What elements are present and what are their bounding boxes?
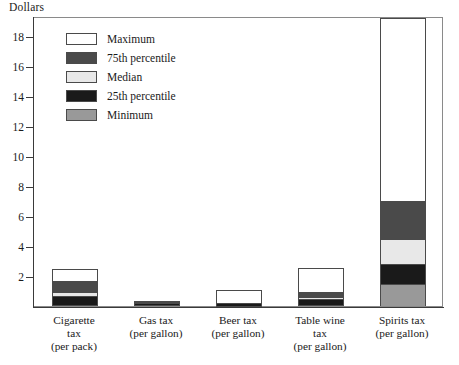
y-axis-tick-mark [26,37,34,38]
bar-segment [380,284,426,307]
x-axis-label: Beer tax (per gallon) [197,314,279,340]
legend-label: 25th percentile [107,90,176,102]
legend-label: Minimum [107,109,153,121]
x-axis-label: Spirits tax (per gallon) [361,314,443,340]
legend-swatch [66,33,97,45]
legend-swatch [66,52,97,64]
y-axis-tick-label: 14 [2,91,24,103]
legend-swatch [66,90,97,102]
legend-item[interactable]: Minimum [66,106,226,125]
y-axis-line [33,17,34,308]
bar-column[interactable] [380,16,426,306]
y-axis-tick-label: 16 [2,61,24,73]
y-axis-tick-label: 8 [2,181,24,193]
y-axis-tick-label: 2 [2,271,24,283]
y-axis-tick-label: 4 [2,241,24,253]
x-axis-label: Cigarette tax (per pack) [33,314,115,354]
y-axis-tick-label: 6 [2,211,24,223]
legend-item[interactable]: Median [66,67,226,86]
y-axis-tick-mark [26,157,34,158]
y-axis-tick-mark [26,127,34,128]
legend-item[interactable]: 75th percentile [66,48,226,67]
y-axis-tick-mark [26,67,34,68]
legend-swatch [66,71,97,83]
y-axis-title: Dollars [9,1,44,13]
legend-swatch [66,109,97,121]
y-axis-tick-mark [26,277,34,278]
legend-label: 75th percentile [107,52,176,64]
x-axis-label: Gas tax (per gallon) [115,314,197,340]
y-axis-tick-label: 18 [2,31,24,43]
y-axis-tick-mark [26,217,34,218]
legend-item[interactable]: 25th percentile [66,87,226,106]
x-axis-line [33,307,444,308]
chart-legend: Maximum75th percentileMedian25th percent… [66,29,226,125]
x-axis-label: Table wine tax (per gallon) [279,314,361,354]
bar-column[interactable] [298,16,344,306]
legend-label: Median [107,71,142,83]
bar-segment [134,305,180,306]
y-axis-tick-label: 10 [2,151,24,163]
y-axis-tick-mark [26,97,34,98]
y-axis-tick-label: 12 [2,121,24,133]
y-axis-tick-mark [26,187,34,188]
y-axis-tick-mark [26,247,34,248]
legend-item[interactable]: Maximum [66,29,226,48]
legend-label: Maximum [107,33,155,45]
